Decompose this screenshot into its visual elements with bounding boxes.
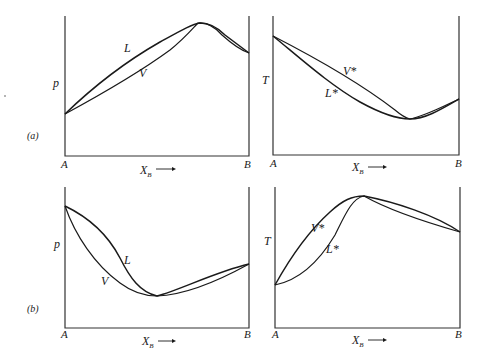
x-axis-label: XB — [351, 333, 364, 349]
panel-b-temperature: V* L* T A B XB — [264, 187, 462, 349]
x-axis-label: XB — [141, 334, 154, 350]
x-right-label-B: B — [455, 157, 462, 169]
y-axis-label-p: p — [52, 76, 59, 90]
x-left-label-A: A — [269, 157, 277, 169]
x-right-label-B: B — [455, 328, 462, 340]
curve-label-V-star: V* — [343, 64, 356, 78]
liquid-curve — [65, 206, 249, 296]
curve-label-V: V — [101, 274, 110, 288]
vapor-curve — [275, 196, 460, 285]
x-left-label-A: A — [271, 328, 279, 340]
curve-label-V-star: V* — [311, 221, 324, 235]
y-axis-label-p: p — [53, 237, 60, 251]
axes-frame — [273, 16, 459, 155]
x-axis-label: XB — [351, 160, 364, 176]
panel-a-temperature: V* L* T A B XB — [262, 16, 462, 176]
x-axis-label: XB — [139, 163, 152, 179]
stray-mark — [4, 95, 6, 97]
y-axis-label-T: T — [264, 234, 272, 248]
x-left-label-A: A — [60, 328, 68, 340]
liquid-curve — [65, 23, 249, 114]
x-right-label-B: B — [244, 158, 251, 170]
curve-label-L: L — [123, 253, 131, 267]
curve-label-L: L — [123, 41, 131, 55]
x-axis-arrowhead-icon — [172, 167, 176, 171]
vapor-curve — [65, 23, 249, 114]
axes-frame — [65, 187, 249, 328]
x-axis-arrowhead-icon — [383, 338, 387, 342]
curve-label-L-star: L* — [324, 86, 338, 100]
vapor-curve — [65, 206, 249, 296]
liquid-curve — [273, 36, 459, 119]
x-left-label-A: A — [60, 158, 68, 170]
curve-label-L-star: L* — [325, 242, 339, 256]
x-right-label-B: B — [244, 328, 251, 340]
liquid-curve — [275, 196, 460, 285]
azeotrope-phase-diagrams: (a) L V p A B XB V* L* T A B XB (b) — [0, 0, 485, 364]
vapor-curve — [273, 36, 459, 119]
panel-a-pressure: L V p A B XB — [52, 16, 251, 179]
y-axis-label-T: T — [262, 73, 270, 87]
panel-b-pressure: L V p A B XB — [53, 187, 251, 350]
x-axis-arrowhead-icon — [383, 165, 387, 169]
row-label-a: (a) — [27, 130, 39, 142]
curve-label-V: V — [139, 66, 148, 80]
axes-frame — [65, 16, 249, 156]
row-label-b: (b) — [27, 303, 39, 315]
axes-frame — [275, 187, 460, 328]
x-axis-arrowhead-icon — [172, 339, 176, 343]
